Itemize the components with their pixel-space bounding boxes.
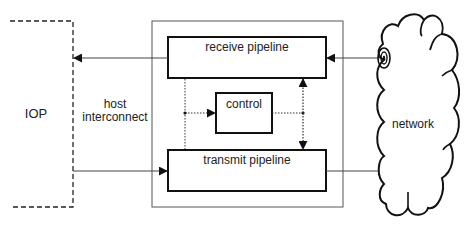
control-label: control xyxy=(226,97,262,111)
transmit-pipeline-label: transmit pipeline xyxy=(203,153,291,167)
receive-pipeline-label: receive pipeline xyxy=(205,40,289,54)
iop-label: IOP xyxy=(25,106,47,121)
cloud-swirl-center xyxy=(383,56,385,61)
host-interconnect-label-line2: interconnect xyxy=(82,110,148,124)
network-label: network xyxy=(392,117,435,131)
host-interconnect-label-line1: host xyxy=(104,97,127,111)
left-junction-dot xyxy=(183,111,186,114)
network-interface-diagram: IOP host interconnect receive pipeline t… xyxy=(0,0,465,226)
network-cloud xyxy=(377,14,459,215)
